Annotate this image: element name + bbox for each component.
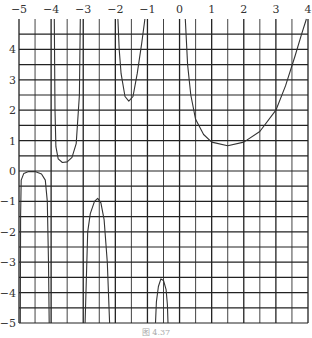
x-tick-label: −3 [75, 3, 91, 16]
figure-caption: 图 4.37 [0, 326, 312, 337]
x-tick-label: −1 [139, 3, 155, 16]
y-tick-label: −1 [0, 195, 16, 208]
grid-lines [19, 19, 308, 323]
x-tick-label: −5 [11, 3, 27, 16]
function-plot: −5−4−3−2−101234 43210−1−2−3−4−5 [0, 0, 312, 338]
x-tick-label: 0 [176, 3, 183, 16]
y-tick-label: 2 [9, 104, 16, 117]
x-axis-tick-labels: −5−4−3−2−101234 [11, 3, 312, 16]
y-tick-label: −4 [0, 287, 16, 300]
x-tick-label: 2 [240, 3, 247, 16]
y-tick-label: −3 [0, 256, 16, 269]
y-tick-label: −2 [0, 226, 16, 239]
y-tick-label: 4 [9, 43, 16, 56]
x-tick-label: 1 [208, 3, 215, 16]
y-axis-tick-labels: 43210−1−2−3−4−5 [0, 43, 16, 330]
x-tick-label: 3 [272, 3, 279, 16]
y-tick-label: 1 [9, 135, 16, 148]
x-tick-label: −2 [107, 3, 123, 16]
x-tick-label: −4 [43, 3, 59, 16]
y-tick-label: 3 [9, 74, 16, 87]
curve-branch [156, 279, 169, 323]
y-tick-label: 0 [9, 165, 16, 178]
curve-branch [185, 19, 306, 146]
x-tick-label: 4 [305, 3, 312, 16]
